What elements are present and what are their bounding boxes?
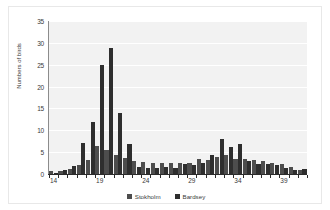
bar-group [104, 21, 113, 174]
bar-stokholm-30[interactable] [197, 159, 201, 174]
bar-bardsey-30[interactable] [201, 163, 205, 174]
chart-container: 05101520253035 Numbers of birds 14192429… [8, 6, 322, 204]
bar-group [261, 21, 270, 174]
bar-stokholm-35[interactable] [243, 159, 247, 174]
bar-stokholm-28[interactable] [178, 163, 182, 174]
bar-group [123, 21, 132, 174]
bar-stokholm-36[interactable] [252, 160, 256, 174]
bar-bardsey-29[interactable] [192, 165, 196, 174]
bar-stokholm-34[interactable] [233, 159, 237, 174]
bar-group [58, 21, 67, 174]
y-axis: 05101520253035 [9, 7, 47, 188]
x-axis-labels: 141924293439 [49, 177, 307, 189]
bar-group [95, 21, 104, 174]
bar-stokholm-23[interactable] [132, 161, 136, 174]
y-tick-label: 15 [37, 105, 44, 112]
bar-stokholm-17[interactable] [77, 165, 81, 174]
bar-stokholm-32[interactable] [215, 157, 219, 174]
bar-bardsey-34[interactable] [238, 144, 242, 174]
bar-group [49, 21, 58, 174]
bar-bardsey-19[interactable] [100, 65, 104, 174]
x-tick-label: 14 [50, 177, 57, 184]
y-tick-label: 25 [37, 61, 44, 68]
bar-bardsey-16[interactable] [72, 166, 76, 174]
bar-series-container [49, 21, 307, 174]
bar-bardsey-36[interactable] [256, 164, 260, 174]
bar-stokholm-26[interactable] [160, 163, 164, 174]
bar-group [141, 21, 150, 174]
bar-group [187, 21, 196, 174]
bar-bardsey-33[interactable] [229, 147, 233, 174]
bar-bardsey-32[interactable] [220, 139, 224, 174]
y-tick-label: 30 [37, 39, 44, 46]
bar-group [252, 21, 261, 174]
bar-stokholm-37[interactable] [261, 161, 265, 174]
y-axis-title: Numbers of birds [16, 30, 22, 102]
x-tick-label: 19 [96, 177, 103, 184]
legend-label: Bardsey [183, 193, 206, 200]
y-tick-label: 10 [37, 127, 44, 134]
legend-swatch-icon [175, 194, 180, 199]
bar-group [270, 21, 279, 174]
bar-group [77, 21, 86, 174]
bar-group [206, 21, 215, 174]
bar-group [178, 21, 187, 174]
bar-bardsey-38[interactable] [275, 165, 279, 174]
x-tick-label: 24 [142, 177, 149, 184]
legend-item-stokholm[interactable]: Stokholm [127, 193, 161, 200]
bar-bardsey-31[interactable] [210, 155, 214, 174]
bar-group [279, 21, 288, 174]
bar-group [233, 21, 242, 174]
y-tick-label: 0 [41, 171, 44, 178]
y-tick-label: 20 [37, 83, 44, 90]
bar-bardsey-18[interactable] [91, 122, 95, 174]
bar-bardsey-22[interactable] [127, 144, 131, 174]
legend-label: Stokholm [135, 193, 161, 200]
chart-legend: StokholmBardsey [9, 190, 323, 202]
bar-group [243, 21, 252, 174]
bar-stokholm-19[interactable] [95, 146, 99, 174]
bar-bardsey-28[interactable] [183, 164, 187, 174]
x-tick-label: 39 [280, 177, 287, 184]
bar-stokholm-20[interactable] [104, 150, 108, 174]
bar-stokholm-25[interactable] [151, 163, 155, 174]
bar-bardsey-20[interactable] [109, 48, 113, 174]
x-tick-label: 29 [188, 177, 195, 184]
bar-bardsey-35[interactable] [247, 161, 251, 174]
y-tick-label: 5 [41, 149, 44, 156]
x-tickmark [307, 175, 308, 178]
bar-bardsey-17[interactable] [81, 143, 85, 174]
bar-stokholm-38[interactable] [270, 163, 274, 174]
bar-group [169, 21, 178, 174]
bar-group [132, 21, 141, 174]
bar-stokholm-29[interactable] [187, 163, 191, 174]
bar-group [298, 21, 307, 174]
legend-item-bardsey[interactable]: Bardsey [175, 193, 206, 200]
bar-group [67, 21, 76, 174]
x-tick-label: 34 [234, 177, 241, 184]
bar-stokholm-31[interactable] [206, 160, 210, 174]
bar-stokholm-18[interactable] [86, 160, 90, 174]
bar-stokholm-27[interactable] [169, 163, 173, 174]
bar-stokholm-33[interactable] [224, 155, 228, 174]
bar-stokholm-21[interactable] [114, 155, 118, 174]
bar-bardsey-21[interactable] [118, 113, 122, 174]
bar-group [224, 21, 233, 174]
bar-group [215, 21, 224, 174]
bar-group [160, 21, 169, 174]
bar-stokholm-24[interactable] [141, 162, 145, 174]
bar-group [114, 21, 123, 174]
bar-group [150, 21, 159, 174]
bar-group [86, 21, 95, 174]
bar-group [289, 21, 298, 174]
legend-swatch-icon [127, 194, 132, 199]
bar-stokholm-40[interactable] [289, 167, 293, 174]
y-tick-label: 35 [37, 18, 44, 25]
bar-stokholm-39[interactable] [280, 164, 284, 174]
bar-group [196, 21, 205, 174]
bar-bardsey-37[interactable] [266, 164, 270, 174]
plot-area [49, 21, 307, 174]
bar-stokholm-22[interactable] [123, 158, 127, 174]
